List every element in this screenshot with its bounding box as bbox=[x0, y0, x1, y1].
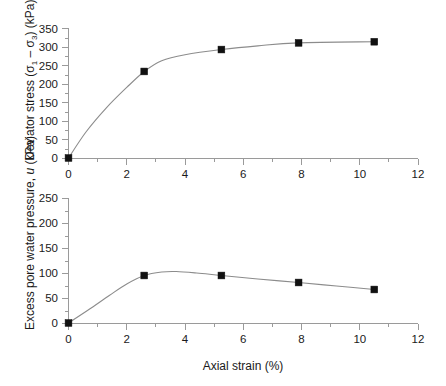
bottom-y-axis-title: Excess pore water pressure, u (kPa) bbox=[23, 136, 37, 330]
bottom-x-tick-label: 2 bbox=[124, 333, 130, 345]
bottom-y-tick-labels: 0 50 100 150 200 250 bbox=[39, 192, 58, 329]
bottom-y-tick-label: 50 bbox=[45, 292, 58, 304]
bottom-y-tick-label: 100 bbox=[39, 267, 58, 279]
bottom-y-tick-label: 150 bbox=[39, 242, 58, 254]
top-y-tick-label: 250 bbox=[39, 60, 58, 72]
bottom-x-tick-label: 6 bbox=[240, 333, 246, 345]
data-point-marker bbox=[141, 68, 148, 75]
bottom-x-tick-label: 10 bbox=[353, 333, 366, 345]
bottom-x-tick-label: 0 bbox=[65, 333, 71, 345]
data-point-marker bbox=[141, 272, 148, 279]
data-point-marker bbox=[218, 272, 225, 279]
bottom-y-tick-label: 200 bbox=[39, 217, 58, 229]
top-x-tick-label: 6 bbox=[240, 168, 246, 180]
data-point-marker bbox=[218, 46, 225, 53]
top-series-markers bbox=[65, 38, 378, 161]
bottom-x-tick-labels: 0 2 4 6 8 10 12 bbox=[65, 333, 424, 345]
bottom-y-tick-label: 250 bbox=[39, 192, 58, 204]
data-point-marker bbox=[65, 155, 72, 162]
bottom-x-tick-label: 12 bbox=[412, 333, 425, 345]
bottom-y-ticks bbox=[62, 199, 69, 324]
top-x-tick-label: 10 bbox=[353, 168, 366, 180]
top-x-tick-label: 2 bbox=[124, 168, 130, 180]
top-y-tick-label: 50 bbox=[45, 134, 58, 146]
top-y-tick-label: 0 bbox=[52, 152, 58, 164]
data-point-marker bbox=[371, 38, 378, 45]
bottom-x-tick-label: 8 bbox=[298, 333, 304, 345]
top-x-tick-label: 4 bbox=[182, 168, 189, 180]
top-y-tick-labels: 0 50 100 150 200 250 300 350 bbox=[39, 23, 58, 165]
dual-panel-chart: Deviator stress (σ1 – σ3) (kPa) bbox=[0, 0, 446, 386]
top-y-tick-label: 350 bbox=[39, 23, 58, 35]
data-point-marker bbox=[295, 39, 302, 46]
bottom-x-ticks bbox=[69, 324, 419, 331]
top-x-ticks bbox=[69, 159, 419, 166]
bottom-series-markers bbox=[65, 272, 378, 326]
figure-root: Deviator stress (σ1 – σ3) (kPa) bbox=[0, 0, 446, 386]
data-point-marker bbox=[65, 320, 72, 327]
bottom-x-tick-label: 4 bbox=[182, 333, 189, 345]
top-x-tick-label: 8 bbox=[298, 168, 304, 180]
x-axis-title: Axial strain (%) bbox=[203, 359, 284, 373]
top-x-tick-label: 12 bbox=[412, 168, 425, 180]
data-point-marker bbox=[371, 286, 378, 293]
top-y-tick-label: 100 bbox=[39, 115, 58, 127]
top-y-ticks bbox=[62, 29, 69, 159]
top-y-tick-label: 300 bbox=[39, 41, 58, 53]
data-point-marker bbox=[295, 279, 302, 286]
top-x-tick-labels: 0 2 4 6 8 10 12 bbox=[65, 168, 424, 180]
bottom-y-tick-label: 0 bbox=[52, 317, 58, 329]
top-x-tick-label: 0 bbox=[65, 168, 71, 180]
top-panel: Deviator stress (σ1 – σ3) (kPa) bbox=[23, 0, 424, 180]
top-series-line bbox=[69, 42, 375, 158]
top-y-tick-label: 200 bbox=[39, 78, 58, 90]
top-y-tick-label: 150 bbox=[39, 97, 58, 109]
